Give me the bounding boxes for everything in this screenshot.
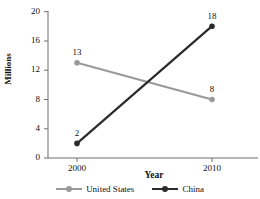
value-label-china-2000: 2 (64, 128, 90, 138)
y-tick-label-0: 0 (14, 152, 40, 162)
series-china (74, 23, 215, 146)
y-tick-label-16: 16 (14, 35, 40, 45)
chart-legend: United States China (0, 184, 260, 194)
y-axis-title: Millions (3, 33, 13, 105)
y-tick-label-8: 8 (14, 94, 40, 104)
data-point-china-2010 (209, 23, 215, 29)
x-axis-title: Year (48, 170, 260, 180)
x-axis-ticks (77, 158, 212, 162)
data-point-china-2000 (74, 141, 80, 147)
y-tick-label-12: 12 (14, 64, 40, 74)
y-tick-label-20: 20 (14, 6, 40, 16)
y-tick-label-4: 4 (14, 123, 40, 133)
data-point-us-2000 (74, 60, 80, 66)
series-united-states (74, 60, 215, 102)
value-label-us-2010: 8 (199, 84, 225, 94)
legend-label-china: China (182, 184, 204, 194)
legend-marker-united-states-icon (56, 185, 82, 194)
value-label-china-2010: 18 (199, 11, 225, 21)
legend-label-united-states: United States (86, 184, 134, 194)
legend-item-united-states[interactable]: United States (56, 184, 134, 194)
y-axis-ticks (44, 12, 48, 158)
legend-marker-china-icon (152, 185, 178, 194)
chart-figure: Millions 20 16 12 8 4 0 2000 2010 Year 1… (0, 0, 260, 199)
legend-item-china[interactable]: China (152, 184, 204, 194)
value-label-us-2000: 13 (64, 47, 90, 57)
data-point-us-2010 (209, 97, 215, 103)
